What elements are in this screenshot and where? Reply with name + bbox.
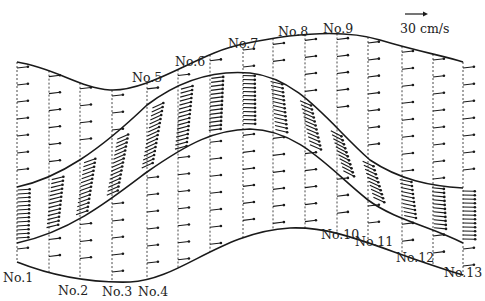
- velocity-vector-icon: [181, 90, 193, 93]
- vector-head-icon: [122, 201, 125, 204]
- velocity-vector-icon: [463, 84, 474, 85]
- vector-head-icon: [162, 102, 165, 105]
- vector-head-icon: [119, 173, 122, 176]
- vector-head-icon: [27, 133, 30, 136]
- vector-head-icon: [283, 103, 286, 106]
- vector-head-icon: [318, 140, 321, 143]
- vector-head-icon: [315, 219, 318, 222]
- vector-head-icon: [373, 169, 376, 172]
- velocity-vector-icon: [179, 102, 191, 105]
- velocity-vector-icon: [211, 81, 223, 82]
- vector-head-icon: [27, 220, 30, 223]
- velocity-vector-icon: [49, 255, 60, 256]
- vector-head-icon: [157, 175, 160, 178]
- velocity-vector-icon: [433, 178, 444, 179]
- vector-head-icon: [222, 80, 225, 83]
- vector-head-icon: [412, 239, 415, 242]
- vector-head-icon: [187, 129, 190, 132]
- vector-head-icon: [157, 209, 160, 212]
- velocity-vector-icon: [17, 67, 28, 68]
- velocity-vector-icon: [177, 126, 189, 129]
- vector-head-icon: [87, 201, 90, 204]
- vector-head-icon: [347, 105, 350, 108]
- velocity-vector-icon: [80, 257, 91, 258]
- vector-head-icon: [285, 119, 288, 122]
- velocity-vector-icon: [180, 94, 192, 97]
- vector-head-icon: [186, 137, 189, 140]
- vector-head-icon: [347, 37, 350, 40]
- velocity-vector-icon: [273, 188, 284, 189]
- vector-head-icon: [220, 112, 223, 115]
- velocity-vector-icon: [243, 151, 254, 152]
- velocity-vector-icon: [147, 88, 158, 89]
- vector-head-icon: [312, 116, 315, 119]
- vector-head-icon: [220, 108, 223, 111]
- vector-head-icon: [473, 167, 476, 170]
- velocity-vector-icon: [49, 238, 60, 239]
- vector-head-icon: [444, 216, 447, 219]
- vector-head-icon: [340, 135, 343, 138]
- vector-head-icon: [473, 150, 476, 153]
- vector-head-icon: [349, 163, 352, 166]
- vector-head-icon: [88, 197, 91, 200]
- vector-head-icon: [253, 218, 256, 221]
- vector-head-icon: [152, 158, 155, 161]
- velocity-vector-icon: [433, 76, 444, 77]
- scale-arrowhead-icon: [423, 12, 428, 17]
- velocity-vector-icon: [16, 233, 28, 234]
- vector-head-icon: [254, 87, 257, 90]
- velocity-vector-icon: [337, 212, 348, 213]
- vector-head-icon: [375, 173, 378, 176]
- velocity-vector-icon: [17, 84, 28, 85]
- vector-head-icon: [219, 128, 222, 131]
- vector-head-icon: [94, 157, 97, 160]
- velocity-vector-icon: [178, 114, 190, 117]
- vector-head-icon: [283, 153, 286, 156]
- vector-head-icon: [315, 128, 318, 131]
- vector-head-icon: [188, 240, 191, 243]
- velocity-vector-icon: [181, 86, 193, 89]
- vector-head-icon: [283, 170, 286, 173]
- velocity-vector-icon: [17, 229, 29, 230]
- velocity-vector-icon: [463, 169, 474, 170]
- velocity-vector-icon: [49, 75, 60, 76]
- section-label: No.6: [175, 54, 205, 69]
- vector-head-icon: [27, 228, 30, 231]
- vector-head-icon: [156, 134, 159, 137]
- vector-head-icon: [348, 159, 351, 162]
- velocity-vector-icon: [211, 89, 223, 90]
- velocity-vector-icon: [402, 68, 413, 69]
- velocity-vector-icon: [49, 205, 61, 208]
- vector-head-icon: [473, 82, 476, 85]
- velocity-vector-icon: [368, 144, 379, 145]
- vector-head-icon: [92, 169, 95, 172]
- vector-head-icon: [122, 218, 125, 221]
- vector-head-icon: [474, 226, 477, 229]
- vector-head-icon: [283, 204, 286, 207]
- velocity-vector-icon: [463, 152, 474, 153]
- velocity-vector-icon: [178, 74, 189, 75]
- vector-head-icon: [221, 92, 224, 95]
- vector-head-icon: [188, 117, 191, 120]
- velocity-vector-icon: [209, 125, 221, 126]
- velocity-vector-icon: [52, 177, 64, 180]
- channel-boundaries: [17, 33, 463, 282]
- velocity-vector-icon: [463, 135, 474, 136]
- velocity-vector-icon: [17, 205, 29, 206]
- velocity-vector-icon: [210, 209, 221, 210]
- velocity-vector-icon: [50, 189, 62, 192]
- vector-head-icon: [315, 168, 318, 171]
- vector-head-icon: [379, 189, 382, 192]
- vector-head-icon: [474, 222, 477, 225]
- velocity-vector-icon: [112, 237, 123, 238]
- velocity-vector-icon: [210, 113, 222, 114]
- velocity-vector-icon: [112, 112, 123, 113]
- vector-head-icon: [412, 101, 415, 104]
- vector-head-icon: [60, 195, 63, 198]
- velocity-vector-icon: [177, 122, 189, 125]
- vector-head-icon: [351, 171, 354, 174]
- velocity-vector-icon: [210, 101, 222, 102]
- velocity-vector-icon: [337, 89, 348, 90]
- vector-head-icon: [90, 239, 93, 242]
- vector-head-icon: [154, 146, 157, 149]
